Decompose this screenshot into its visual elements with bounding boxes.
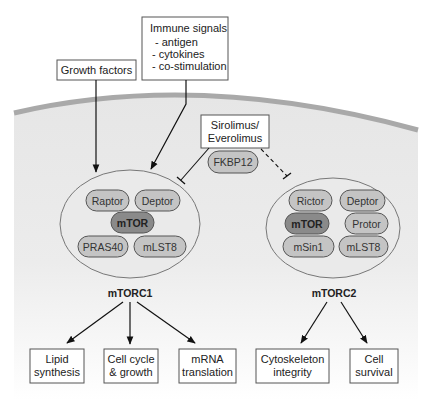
msin1-pill: mSin1	[283, 236, 334, 257]
mrna-translation-box: mRNA translation	[179, 349, 236, 383]
deptor-pill-c1: Deptor	[135, 190, 180, 211]
mtorc2-label: mTORC2	[312, 287, 357, 299]
immune-signals-box: Immune signals - antigen - cytokines - c…	[142, 17, 228, 80]
svg-text:mTOR: mTOR	[117, 217, 149, 229]
svg-text:Cell: Cell	[365, 353, 384, 365]
svg-text:Rictor: Rictor	[297, 195, 325, 207]
svg-text:Deptor: Deptor	[347, 195, 379, 207]
mtor-pill-c1: mTOR	[111, 212, 154, 233]
immune-signal-item: - co-stimulation	[152, 60, 227, 72]
svg-text:Lipid: Lipid	[45, 353, 68, 365]
svg-text:Cytoskeleton: Cytoskeleton	[261, 353, 325, 365]
mtorc1-label: mTORC1	[108, 287, 153, 299]
rictor-pill: Rictor	[289, 190, 332, 211]
svg-text:& growth: & growth	[109, 366, 152, 378]
svg-text:Cell cycle: Cell cycle	[107, 353, 154, 365]
svg-text:Deptor: Deptor	[142, 195, 174, 207]
inhibitor-label-line1: Sirolimus/	[211, 119, 260, 131]
svg-text:Raptor: Raptor	[92, 195, 124, 207]
svg-text:PRAS40: PRAS40	[83, 241, 123, 253]
cytoskeleton-integrity-box: Cytoskeleton integrity	[256, 349, 329, 383]
svg-text:translation: translation	[182, 366, 233, 378]
growth-factors-label: Growth factors	[61, 64, 133, 76]
cell-survival-box: Cell survival	[350, 349, 398, 383]
svg-text:integrity: integrity	[273, 366, 312, 378]
svg-text:mTOR: mTOR	[291, 218, 323, 230]
svg-text:mRNA: mRNA	[191, 353, 224, 365]
fkbp12-label: FKBP12	[213, 156, 252, 168]
mtor-diagram: Growth factors Immune signals - antigen …	[0, 0, 432, 400]
mlst8-pill-c2: mLST8	[339, 236, 388, 257]
diagram-canvas: Growth factors Immune signals - antigen …	[0, 0, 432, 400]
deptor-pill-c2: Deptor	[340, 190, 385, 211]
svg-text:mLST8: mLST8	[143, 241, 177, 253]
svg-text:survival: survival	[355, 366, 392, 378]
svg-text:mLST8: mLST8	[347, 241, 381, 253]
immune-signal-item: - cytokines	[152, 48, 205, 60]
fkbp12-pill: FKBP12	[208, 151, 258, 173]
mtorc1-complex: Raptor Deptor mTOR PRAS40 mLST8	[60, 170, 200, 278]
svg-text:Protor: Protor	[352, 218, 381, 230]
pras40-pill: PRAS40	[78, 236, 128, 257]
lipid-synthesis-box: Lipid synthesis	[30, 349, 84, 383]
svg-text:synthesis: synthesis	[34, 366, 80, 378]
cell-cycle-growth-box: Cell cycle & growth	[104, 349, 158, 383]
mtor-pill-c2: mTOR	[285, 213, 329, 234]
protor-pill: Protor	[345, 213, 388, 234]
raptor-pill: Raptor	[86, 190, 129, 211]
mlst8-pill-c1: mLST8	[134, 236, 186, 257]
mtorc2-complex: Rictor Deptor mTOR Protor mSin1 mLST8	[266, 178, 400, 278]
sirolimus-everolimus-box: Sirolimus/ Everolimus	[201, 115, 269, 148]
immune-signals-title: Immune signals	[150, 22, 228, 34]
growth-factors-box: Growth factors	[57, 60, 136, 80]
immune-signal-item: - antigen	[155, 36, 198, 48]
inhibitor-label-line2: Everolimus	[208, 132, 263, 144]
svg-text:mSin1: mSin1	[294, 241, 324, 253]
